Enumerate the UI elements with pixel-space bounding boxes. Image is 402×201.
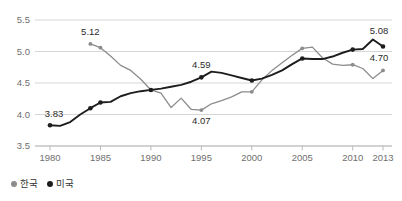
data-point — [149, 88, 154, 93]
line-chart: 3.54.04.55.05.5 198019851990199520002005… — [0, 0, 402, 201]
legend-dot-icon — [47, 181, 53, 187]
data-point — [300, 46, 304, 50]
y-tick-label: 3.5 — [17, 140, 30, 151]
data-point — [88, 106, 93, 111]
data-point — [48, 123, 53, 128]
y-tick-label: 4.5 — [17, 77, 30, 88]
data-point — [350, 47, 355, 52]
data-label: 4.70 — [370, 52, 389, 63]
x-tick-label: 1995 — [191, 152, 212, 163]
data-label: 4.59 — [192, 59, 211, 70]
legend-item[interactable]: 한국 — [11, 179, 38, 189]
legend-dot-icon — [11, 181, 17, 187]
chart-legend: 한국미국 — [11, 179, 74, 189]
data-point — [300, 56, 305, 61]
x-tick-label: 2000 — [241, 152, 262, 163]
legend-item[interactable]: 미국 — [47, 179, 74, 189]
y-tick-label: 4.0 — [17, 109, 30, 120]
data-point — [98, 100, 103, 105]
data-point — [88, 42, 92, 46]
legend-label: 한국 — [20, 179, 38, 189]
x-tick-label: 2013 — [372, 152, 393, 163]
x-tick-label: 1985 — [90, 152, 111, 163]
y-tick-label: 5.5 — [17, 14, 30, 25]
data-point — [381, 44, 386, 49]
legend-label: 미국 — [56, 179, 74, 189]
x-tick-label: 2010 — [342, 152, 363, 163]
data-point — [99, 46, 103, 50]
chart-canvas: 3.54.04.55.05.5 198019851990199520002005… — [0, 0, 402, 201]
data-labels: 5.124.074.703.834.595.08 — [45, 25, 389, 126]
data-point — [199, 75, 204, 80]
x-tick-label: 2005 — [292, 152, 313, 163]
data-label: 5.12 — [81, 26, 100, 37]
data-label: 3.83 — [45, 108, 64, 119]
data-label: 5.08 — [370, 25, 389, 36]
data-point — [250, 78, 255, 83]
data-point — [199, 108, 203, 112]
data-point — [250, 90, 254, 94]
data-point — [351, 63, 355, 67]
x-tick-label: 1990 — [140, 152, 161, 163]
x-axis-ticks: 19801985199019952000200520102013 — [39, 146, 393, 163]
gridlines — [35, 20, 392, 146]
data-point — [381, 69, 385, 73]
y-tick-label: 5.0 — [17, 46, 30, 57]
y-axis-ticks: 3.54.04.55.05.5 — [17, 14, 30, 151]
data-label: 4.07 — [192, 115, 211, 126]
x-tick-label: 1980 — [39, 152, 60, 163]
